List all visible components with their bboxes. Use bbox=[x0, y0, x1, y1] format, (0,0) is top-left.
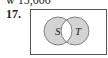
set-s-label: S bbox=[55, 25, 61, 37]
set-t-label: T bbox=[75, 25, 82, 37]
venn-diagram: S T bbox=[0, 0, 108, 58]
